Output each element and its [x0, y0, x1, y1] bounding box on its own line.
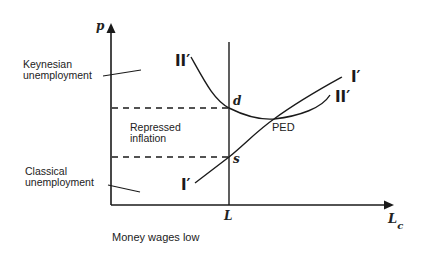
keynesian-line2: unemployment — [23, 70, 92, 81]
y-axis-label: p — [96, 21, 104, 32]
caption: Money wages low — [112, 232, 199, 243]
y-axis-arrow-icon — [107, 23, 116, 33]
point-s-label: s — [233, 154, 240, 165]
classical-unemployment-label: Classical unemployment — [25, 166, 94, 188]
point-d-label: d — [233, 96, 241, 107]
keynesian-unemployment-label: Keynesian unemployment — [23, 59, 92, 81]
repressed-line2: inflation — [130, 133, 181, 144]
classical-pointer — [108, 185, 140, 192]
x-axis-label-main: L — [388, 211, 397, 226]
classical-line2: unemployment — [25, 177, 94, 188]
vertical-line-label: L — [224, 211, 232, 222]
i-prime-curve — [195, 77, 342, 183]
x-axis-label-sub: c — [397, 220, 403, 231]
i-prime-label-left: I′ — [181, 176, 191, 194]
i-prime-label-right: I′ — [351, 68, 361, 86]
keynesian-pointer — [103, 70, 141, 76]
x-axis-arrow-icon — [384, 201, 394, 210]
x-axis-label: Lc — [388, 213, 403, 229]
ii-prime-label-left: II′ — [175, 52, 190, 70]
ii-prime-curve — [191, 57, 330, 119]
ii-prime-label-right: II′ — [335, 88, 350, 106]
ped-label: PED — [272, 122, 295, 133]
repressed-inflation-label: Repressed inflation — [130, 122, 181, 144]
diagram-canvas — [0, 0, 421, 257]
